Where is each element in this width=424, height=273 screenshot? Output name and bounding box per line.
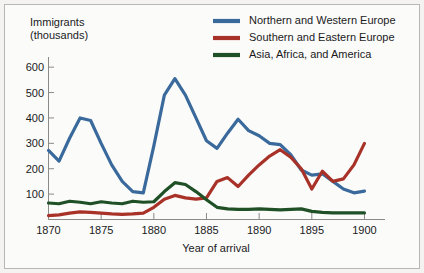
x-axis-title: Year of arrival: [182, 242, 249, 254]
data-series-group: [49, 79, 365, 216]
x-tick-label: 1870: [36, 224, 60, 236]
x-tick-label: 1875: [89, 224, 113, 236]
x-tick-label: 1885: [194, 224, 218, 236]
y-axis-title-line2: (thousands): [30, 29, 88, 41]
x-tick-label: 1890: [247, 224, 271, 236]
y-tick-label: 300: [26, 137, 44, 149]
y-tick-label: 600: [26, 61, 44, 73]
y-tick-label: 100: [26, 188, 44, 200]
line-chart-svg: 100200300400500600 187018751880188518901…: [0, 0, 424, 273]
x-axis: 1870187518801885189018951900: [36, 213, 376, 236]
series-line-1: [49, 143, 365, 215]
y-axis: 100200300400500600: [26, 61, 54, 200]
legend-label-2: Asia, Africa, and America: [249, 48, 372, 60]
y-tick-label: 500: [26, 87, 44, 99]
y-tick-label: 400: [26, 112, 44, 124]
y-axis-title-line1: Immigrants: [30, 16, 85, 28]
x-tick-label: 1900: [352, 224, 376, 236]
legend-label-0: Northern and Western Europe: [249, 14, 396, 26]
chart-plot-area: 100200300400500600 187018751880188518901…: [0, 0, 424, 273]
x-tick-label: 1895: [300, 224, 324, 236]
x-tick-label: 1880: [142, 224, 166, 236]
series-line-2: [49, 183, 365, 213]
chart-legend: Northern and Western EuropeSouthern and …: [213, 14, 396, 60]
y-tick-label: 200: [26, 163, 44, 175]
legend-label-1: Southern and Eastern Europe: [249, 31, 395, 43]
series-line-0: [49, 79, 365, 193]
figure-container: 100200300400500600 187018751880188518901…: [0, 0, 424, 273]
